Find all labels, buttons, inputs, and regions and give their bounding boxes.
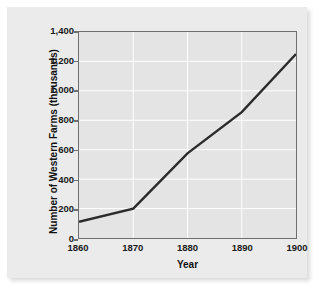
y-axis-tick-mark bbox=[74, 239, 78, 241]
x-axis-tick-label: 1880 bbox=[177, 243, 198, 253]
data-line-series bbox=[79, 32, 296, 238]
series-line-western-farms bbox=[79, 54, 296, 222]
y-axis-tick-label: 1,000 bbox=[50, 85, 74, 95]
y-axis-tick-label: 1,400 bbox=[50, 26, 74, 36]
chart-panel: Number of Western Farms (thousands) 0200… bbox=[7, 7, 307, 278]
x-axis-tick-label: 1900 bbox=[286, 243, 307, 253]
y-axis-tick-labels: 02004006008001,0001,2001,400 bbox=[35, 31, 74, 239]
x-axis-tick-label: 1860 bbox=[67, 243, 88, 253]
x-axis-tick-label: 1890 bbox=[232, 243, 253, 253]
x-axis-tick-label: 1870 bbox=[122, 243, 143, 253]
x-axis-title: Year bbox=[78, 259, 297, 270]
y-axis-tick-label: 400 bbox=[58, 175, 74, 185]
x-axis-tick-labels: 18601870188018901900 bbox=[78, 243, 297, 257]
chart-figure: Number of Western Farms (thousands) 0200… bbox=[0, 0, 323, 292]
y-axis-tick-label: 600 bbox=[58, 145, 74, 155]
y-axis-tick-label: 200 bbox=[58, 204, 74, 214]
y-axis-tick-label: 800 bbox=[58, 115, 74, 125]
y-axis-tick-label: 1,200 bbox=[50, 56, 74, 66]
plot-area bbox=[78, 31, 297, 239]
